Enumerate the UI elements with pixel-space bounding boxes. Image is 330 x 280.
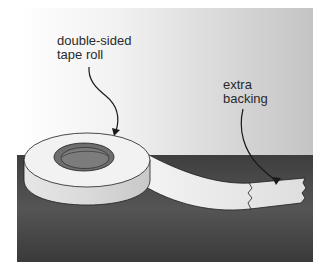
label-extra-backing: extra backing [223, 78, 268, 106]
tape-drawing [0, 0, 330, 280]
label-extra-backing-line1: extra [223, 78, 268, 92]
label-tape-roll-line2: tape roll [57, 48, 131, 62]
label-extra-backing-line2: backing [223, 92, 268, 106]
label-tape-roll-line1: double-sided [57, 34, 131, 48]
label-tape-roll: double-sided tape roll [57, 34, 131, 62]
tape-illustration: double-sided tape roll extra backing [0, 0, 330, 280]
roll-core-inner [61, 148, 109, 169]
